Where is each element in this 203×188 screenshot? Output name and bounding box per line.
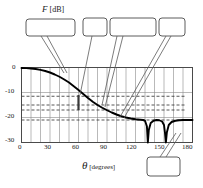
callout-box-f-plus-10[interactable]: [83, 18, 107, 36]
leader-f-plus-10: [80, 36, 92, 95]
antenna-roll-off-figure: F [dB] θ [degrees] 0 -10 -20 -30 0 30 60…: [0, 0, 203, 188]
callout-box-f-nadir[interactable]: [147, 157, 180, 176]
leader-f-horizon-a: [102, 36, 117, 105]
callout-box-f-minus-10[interactable]: [159, 18, 185, 36]
callout-box-roll-off[interactable]: [26, 19, 75, 36]
callout-box-f-horizon[interactable]: [110, 18, 156, 36]
plot-svg: [0, 0, 203, 188]
